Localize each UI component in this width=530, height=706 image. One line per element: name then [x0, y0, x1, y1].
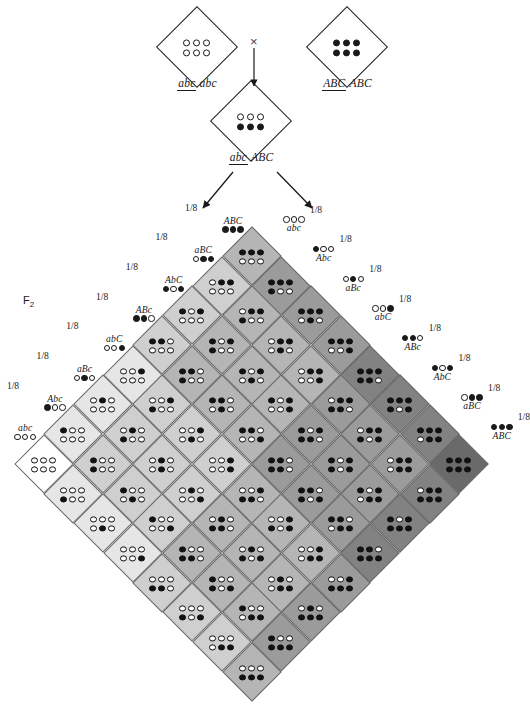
punnett-cell-dots — [120, 546, 146, 563]
recessive-allele-dot — [257, 546, 264, 553]
recessive-allele-dot — [149, 457, 156, 464]
punnett-cell-dots — [90, 457, 116, 474]
dominant-allele-dot — [218, 397, 225, 404]
recessive-allele-dot — [197, 436, 204, 443]
dominant-allele-dot — [239, 249, 246, 256]
dominant-allele-dot — [307, 436, 314, 443]
dominant-allele-dot — [337, 585, 344, 592]
dominant-allele-dot — [298, 427, 305, 434]
recessive-allele-dot — [167, 406, 174, 413]
recessive-allele-dot — [111, 345, 117, 351]
recessive-allele-dot — [197, 377, 204, 384]
dominant-allele-dot — [90, 466, 97, 473]
recessive-allele-dot — [188, 605, 195, 612]
punnett-cell-dots — [31, 457, 57, 474]
dominant-allele-dot — [337, 397, 344, 404]
punnett-cell-dots — [268, 279, 294, 296]
dominant-allele-dot — [405, 525, 412, 532]
gamete-frequency-right-7: 1/8 — [518, 411, 530, 422]
punnett-cell-dots — [209, 397, 235, 414]
dominant-allele-dot — [209, 338, 216, 345]
dominant-allele-dot — [120, 436, 127, 443]
dominant-allele-dot — [328, 516, 335, 523]
recessive-allele-dot — [158, 406, 165, 413]
recessive-allele-dot — [277, 406, 284, 413]
dominant-allele-dot — [188, 368, 195, 375]
punnett-cell-dots — [268, 457, 294, 474]
recessive-allele-dot — [218, 576, 225, 583]
recessive-allele-dot — [239, 258, 246, 265]
punnett-cell-dots — [149, 516, 175, 533]
recessive-allele-dot — [337, 466, 344, 473]
recessive-allele-dot — [108, 516, 115, 523]
dominant-allele-dot — [179, 546, 186, 553]
gamete-left-3: ABc — [118, 305, 170, 323]
recessive-allele-dot — [277, 397, 284, 404]
dominant-allele-dot — [257, 308, 264, 315]
recessive-allele-dot — [209, 279, 216, 286]
gamete-right-5: AbC — [416, 364, 468, 382]
recessive-allele-dot — [179, 436, 186, 443]
dominant-allele-dot — [307, 368, 314, 375]
recessive-allele-dot — [239, 436, 246, 443]
recessive-allele-dot — [257, 258, 264, 265]
dominant-allele-dot — [446, 466, 453, 473]
punnett-cell-dots — [120, 486, 146, 503]
dominant-allele-dot — [218, 644, 225, 651]
gamete-genotype-label: AbC — [148, 275, 200, 285]
dominant-allele-dot — [158, 338, 165, 345]
recessive-allele-dot — [90, 406, 97, 413]
dominant-allele-dot — [405, 466, 412, 473]
gamete-right-4: ABc — [387, 334, 439, 352]
recessive-allele-dot — [158, 525, 165, 532]
punnett-cell-dots — [328, 516, 354, 533]
recessive-allele-dot — [248, 258, 255, 265]
recessive-allele-dot — [31, 457, 38, 464]
recessive-allele-dot — [90, 397, 97, 404]
dominant-allele-dot — [188, 436, 195, 443]
punnett-cell-dots — [209, 279, 235, 296]
dominant-allele-dot — [375, 486, 382, 493]
punnett-cell-dots — [179, 427, 205, 444]
recessive-allele-dot — [277, 635, 284, 642]
dominant-allele-dot — [316, 546, 323, 553]
recessive-allele-dot — [74, 375, 80, 381]
recessive-allele-dot — [209, 516, 216, 523]
dominant-allele-dot — [149, 338, 156, 345]
recessive-allele-dot — [239, 308, 246, 315]
recessive-allele-dot — [218, 635, 225, 642]
recessive-allele-dot — [188, 495, 195, 502]
recessive-allele-dot — [104, 345, 110, 351]
dominant-allele-dot — [208, 256, 214, 262]
recessive-allele-dot — [179, 495, 186, 502]
dominant-allele-dot — [268, 397, 275, 404]
dominant-allele-dot — [286, 516, 293, 523]
recessive-allele-dot — [209, 635, 216, 642]
punnett-cell-dots — [357, 427, 383, 444]
gamete-genotype-label: abC — [88, 334, 140, 344]
recessive-allele-dot — [167, 576, 174, 583]
dominant-allele-dot — [248, 249, 255, 256]
recessive-allele-dot — [248, 555, 255, 562]
dominant-allele-dot — [328, 406, 335, 413]
recessive-allele-dot — [31, 466, 38, 473]
punnett-cell-dots — [298, 368, 324, 385]
gamete-frequency-left-3: 1/8 — [96, 291, 108, 302]
dominant-allele-dot — [81, 375, 87, 381]
recessive-allele-dot — [49, 457, 56, 464]
recessive-allele-dot — [149, 576, 156, 583]
recessive-allele-dot — [138, 377, 145, 384]
dominant-allele-dot — [268, 466, 275, 473]
dominant-allele-dot — [396, 525, 403, 532]
dominant-allele-dot — [197, 427, 204, 434]
dominant-allele-dot — [277, 585, 284, 592]
dominant-allele-dot — [405, 397, 412, 404]
punnett-cell-dots — [90, 516, 116, 533]
recessive-allele-dot — [158, 576, 165, 583]
dominant-allele-dot — [248, 377, 255, 384]
gamete-right-2: aBc — [327, 275, 379, 293]
recessive-allele-dot — [197, 486, 204, 493]
dominant-allele-dot — [298, 614, 305, 621]
gamete-dots — [88, 345, 140, 351]
recessive-allele-dot — [197, 546, 204, 553]
